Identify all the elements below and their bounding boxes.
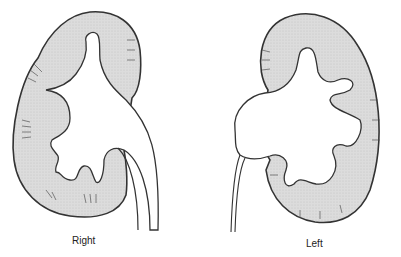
kidney-illustration: Right Left: [0, 0, 401, 257]
left-kidney-label: Left: [306, 238, 323, 249]
kidney-drawings: [0, 0, 401, 257]
right-kidney-label: Right: [72, 235, 95, 246]
left-kidney: [231, 14, 380, 232]
right-kidney: [13, 12, 158, 230]
